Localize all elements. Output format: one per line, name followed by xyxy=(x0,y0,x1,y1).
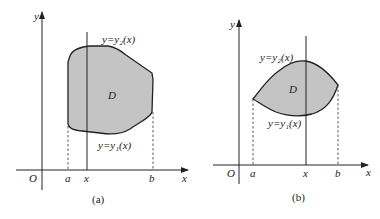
tick-a-label: a xyxy=(65,172,71,184)
y-axis-label: y xyxy=(33,10,39,22)
region-label: D xyxy=(107,89,116,101)
upper-curve-label: y=y₂(x) xyxy=(259,51,294,64)
figure-b: y x O a x b D y=y₂(x) y=y₁(x) (b) xyxy=(213,18,371,204)
caption-b: (b) xyxy=(292,191,305,204)
caption-a: (a) xyxy=(92,193,105,206)
origin-label: O xyxy=(227,167,235,179)
x-axis-label: x xyxy=(181,172,187,184)
lower-curve-label: y=y₁(x) xyxy=(97,139,132,152)
y-axis-label: y xyxy=(229,18,235,30)
region-label: D xyxy=(288,83,297,95)
tick-x-label: x xyxy=(83,172,89,184)
x-axis-label: x xyxy=(365,166,371,178)
lower-curve-label: y=y₁(x) xyxy=(267,117,302,130)
tick-a-label: a xyxy=(250,167,256,179)
origin-label: O xyxy=(29,172,37,184)
tick-b-label: b xyxy=(149,172,155,184)
upper-curve-label: y=y₂(x) xyxy=(101,33,136,46)
figure-canvas: y x O a x b D y=y₂(x) y=y₁(x) (a) y x O … xyxy=(0,0,380,219)
figure-a: y x O a x b D y=y₂(x) y=y₁(x) (a) xyxy=(16,10,188,206)
tick-x-label: x xyxy=(302,167,308,179)
tick-b-label: b xyxy=(335,167,341,179)
